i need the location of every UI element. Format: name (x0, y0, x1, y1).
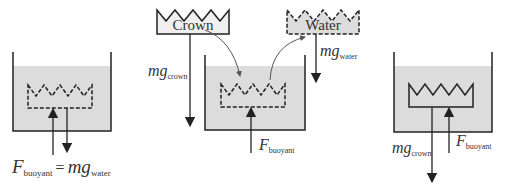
left-panel: Fbuoyant=mgwater (11, 52, 111, 178)
f-buoyant-label: Fbuoyant (258, 136, 295, 155)
tank-middle (205, 55, 305, 130)
equation-label: Fbuoyant=mgwater (11, 156, 111, 178)
buoyancy-diagram: Fbuoyant=mgwater Crown mgcrown Water mgw… (0, 0, 505, 187)
mg-crown-label: mgcrown (148, 62, 188, 81)
water-label: Water (305, 17, 340, 33)
crown-box: Crown (157, 10, 229, 34)
mg-water-label: mgwater (320, 42, 358, 61)
f-buoyant-label-right: Fbuoyant (455, 132, 492, 151)
middle-panel: Crown mgcrown Water mgwater Fbuoyant (148, 10, 359, 155)
mg-crown-label-right: mgcrown (392, 139, 432, 158)
water-box: Water (287, 10, 359, 34)
right-panel: mgcrown Fbuoyant (392, 52, 492, 178)
